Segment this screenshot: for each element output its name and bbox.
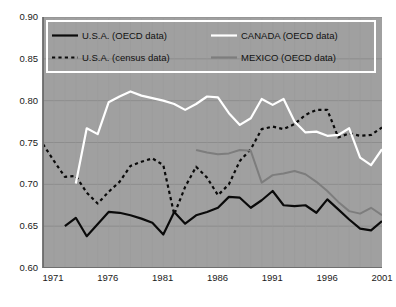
x-tick-label: 1971	[42, 272, 63, 283]
y-tick-label: 0.80	[4, 96, 38, 106]
y-tick-label: 0.65	[4, 221, 38, 231]
chart-figure: 0.600.650.700.750.800.850.90 19711976198…	[0, 0, 396, 307]
legend-key-canada-oecd-icon	[211, 30, 237, 41]
legend-item[interactable]: MEXICO (OECD data)	[211, 52, 370, 63]
x-tick-label: 1991	[262, 272, 283, 283]
x-tick-label: 1996	[317, 272, 338, 283]
legend-key-usa-oecd-icon	[52, 30, 78, 41]
legend-item[interactable]: U.S.A. (census data)	[52, 52, 211, 63]
x-tick-label: 1976	[97, 272, 118, 283]
series-line-1	[43, 110, 382, 215]
y-tick-label: 0.90	[4, 12, 38, 22]
legend-label: U.S.A. (OECD data)	[82, 30, 167, 41]
legend-key-mexico-oecd-icon	[211, 52, 237, 63]
x-tick-label: 1981	[152, 272, 173, 283]
y-tick-label: 0.85	[4, 54, 38, 64]
y-axis: 0.600.650.700.750.800.850.90	[0, 0, 38, 307]
legend-label: CANADA (OECD data)	[241, 30, 338, 41]
legend-key-usa-census-icon	[52, 52, 78, 63]
legend-item[interactable]: U.S.A. (OECD data)	[52, 30, 211, 41]
legend-item[interactable]: CANADA (OECD data)	[211, 30, 370, 41]
y-tick-label: 0.70	[4, 179, 38, 189]
x-tick-label: 2001	[371, 272, 392, 283]
chart-legend: U.S.A. (OECD data)CANADA (OECD data)U.S.…	[46, 20, 376, 73]
x-tick-label: 1986	[207, 272, 228, 283]
y-tick-label: 0.75	[4, 138, 38, 148]
x-axis: 1971197619811986199119962001	[0, 270, 396, 290]
legend-label: U.S.A. (census data)	[82, 52, 170, 63]
legend-label: MEXICO (OECD data)	[241, 52, 336, 63]
